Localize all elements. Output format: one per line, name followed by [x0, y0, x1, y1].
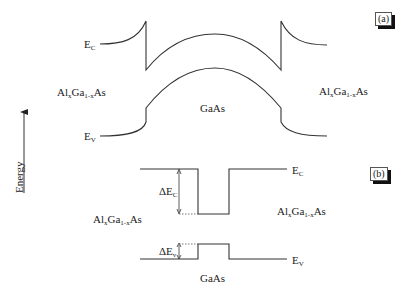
panel-b-delta-ev-label: ΔEv [159, 246, 176, 259]
panel-b-right-material: AlxGa1-xAs [277, 206, 326, 219]
panel-a-ev-label: EV [84, 131, 96, 144]
panel-b-ev-label: EV [292, 255, 304, 268]
panel-a-conduction-band [100, 21, 327, 70]
panel-a-ec-label: EC [84, 39, 95, 52]
panel-a-center-material: GaAs [200, 103, 225, 114]
band-diagram-canvas [0, 0, 403, 295]
energy-axis-label: Energy [13, 161, 25, 193]
panel-b-delta-ec-label: ΔEC [159, 186, 177, 199]
panel-b-tag: (b) [370, 167, 388, 181]
panel-b-left-material: AlxGa1-xAs [93, 214, 142, 227]
panel-a-tag: (a) [375, 12, 392, 26]
panel-a-right-material: AlxGa1-xAs [319, 86, 368, 99]
panel-b-ec-label: EC [292, 165, 303, 178]
panel-b-center-material: GaAs [200, 273, 225, 284]
panel-a-left-material: AlxGa1-xAs [57, 87, 106, 100]
